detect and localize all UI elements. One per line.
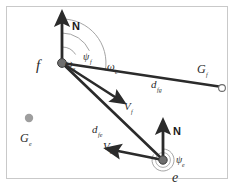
north-label-f: N bbox=[72, 20, 80, 32]
node-label-e: e bbox=[172, 170, 178, 185]
node-marker-gf bbox=[219, 85, 226, 92]
vector-geometry-diagram: f e G f G e N N V f V e d fg d fe ω s ψ … bbox=[0, 0, 234, 190]
node-marker-e bbox=[159, 156, 167, 164]
range-label-dfg-subscript: fg bbox=[157, 87, 162, 93]
diagram-frame bbox=[7, 7, 228, 179]
diagram-canvas: f e G f G e N N V f V e d fg d fe ω s ψ … bbox=[0, 0, 234, 190]
north-label-e: N bbox=[173, 125, 181, 137]
angle-label-omega-e: ω bbox=[107, 60, 115, 72]
angle-label-omega-s: ω bbox=[65, 57, 73, 69]
node-label-ge-subscript: e bbox=[29, 141, 32, 147]
node-label-gf: G bbox=[197, 62, 206, 76]
angle-label-omega-e-subscript: e bbox=[115, 69, 118, 75]
range-label-dfe-subscript: fe bbox=[98, 132, 103, 138]
velocity-label-ve-subscript: e bbox=[110, 149, 113, 155]
angle-label-psi-f: ψ bbox=[83, 51, 90, 62]
node-marker-ge bbox=[25, 114, 33, 122]
angle-label-psi-e-subscript: e bbox=[182, 162, 185, 168]
node-label-ge: G bbox=[20, 131, 29, 145]
